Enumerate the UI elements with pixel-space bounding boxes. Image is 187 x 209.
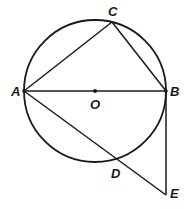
center-o-dot <box>93 89 97 93</box>
segment-ac <box>24 22 112 91</box>
label-d: D <box>111 166 121 181</box>
label-e: E <box>170 186 179 201</box>
label-c: C <box>108 4 118 19</box>
point-b-dot <box>164 89 168 93</box>
point-a-dot <box>22 89 26 93</box>
label-o: O <box>90 97 100 112</box>
geometry-diagram: C A O B D E <box>0 0 187 209</box>
diagram-canvas: C A O B D E <box>0 0 187 209</box>
label-a: A <box>10 84 20 99</box>
label-b: B <box>170 84 179 99</box>
